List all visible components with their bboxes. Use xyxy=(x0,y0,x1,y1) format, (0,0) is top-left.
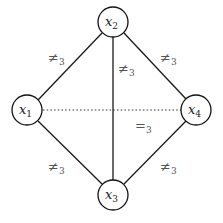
node-x3: x3 xyxy=(98,180,128,210)
edge-x1-x3 xyxy=(38,121,102,184)
node-x4: x4 xyxy=(181,95,211,125)
edge-x2-x4 xyxy=(124,33,186,99)
node-x2: x2 xyxy=(98,7,128,37)
edge-label-x2-x3: ≠3 xyxy=(118,61,135,78)
edge-label-x1-x4: =3 xyxy=(135,118,152,135)
edge-label-x1-x2: ≠3 xyxy=(48,50,65,67)
edge-label-x1-x3: ≠3 xyxy=(48,159,65,176)
edge-label-x2-x4: ≠3 xyxy=(160,50,177,67)
edge-label-x3-x4: ≠3 xyxy=(160,159,177,176)
constraint-graph: ≠3 ≠3 ≠3 ≠3 ≠3 =3 x1 x2 x3 x4 xyxy=(0,0,223,223)
node-x1: x1 xyxy=(12,95,42,125)
edge-x3-x4 xyxy=(124,121,186,184)
edge-x1-x2 xyxy=(38,33,102,100)
